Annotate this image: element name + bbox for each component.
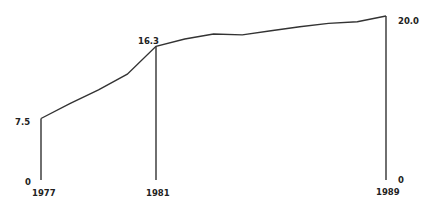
value-label-1977: 7.5	[15, 117, 30, 127]
x-tick-1981: 1981	[146, 188, 170, 198]
baseline-zero-right: 0	[398, 175, 404, 185]
x-tick-1977: 1977	[32, 188, 56, 198]
value-label-1981: 16.3	[138, 36, 159, 46]
x-tick-1989: 1989	[376, 187, 400, 197]
value-label-1989: 20.0	[398, 16, 419, 26]
data-line	[41, 16, 386, 119]
line-chart: 7.5 16.3 20.0 0 0 1977 1981 1989	[0, 0, 431, 208]
drop-lines	[41, 16, 386, 180]
baseline-zero-left: 0	[25, 177, 31, 187]
